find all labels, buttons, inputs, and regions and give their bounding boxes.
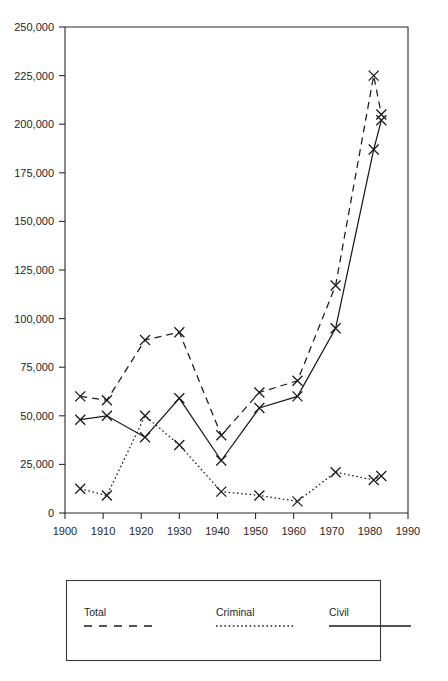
data-point-marker [102, 491, 112, 501]
legend-item-criminal: Criminal [216, 606, 294, 626]
x-axis-tick-label: 1970 [320, 525, 344, 537]
y-axis-tick-label: 200,000 [14, 118, 54, 130]
y-axis-tick-label: 150,000 [14, 215, 54, 227]
series-total [75, 71, 386, 441]
data-point-marker [331, 467, 341, 477]
data-point-marker [174, 440, 184, 450]
data-point-marker [174, 393, 184, 403]
legend-item-label: Total [84, 606, 106, 618]
data-point-marker [292, 376, 302, 386]
x-axis-tick-label: 1910 [91, 525, 115, 537]
x-axis-tick-label: 1960 [281, 525, 305, 537]
data-point-marker [254, 387, 264, 397]
data-point-marker [369, 71, 379, 81]
y-axis-tick-label: 0 [48, 507, 54, 519]
data-point-marker [376, 115, 386, 125]
line-chart-svg: 025,00050,00075,000100,000125,000150,000… [0, 0, 448, 560]
y-axis-tick-label: 225,000 [14, 70, 54, 82]
legend-border [67, 581, 381, 661]
data-point-marker [174, 327, 184, 337]
y-axis-tick-label: 250,000 [14, 21, 54, 33]
series-line [80, 76, 381, 436]
x-axis-tick-label: 1990 [396, 525, 420, 537]
y-axis-tick-label: 175,000 [14, 167, 54, 179]
data-point-marker [140, 432, 150, 442]
data-point-marker [140, 411, 150, 421]
data-point-marker [254, 403, 264, 413]
chart-figure: 025,00050,00075,000100,000125,000150,000… [0, 0, 448, 681]
legend-item-label: Criminal [216, 606, 255, 618]
legend-item-civil: Civil [329, 606, 411, 626]
legend-item-label: Civil [329, 606, 349, 618]
chart-legend: TotalCriminalCivil [0, 560, 448, 681]
y-axis-tick-label: 100,000 [14, 313, 54, 325]
data-point-marker [216, 430, 226, 440]
series-line [80, 120, 381, 460]
data-point-marker [140, 335, 150, 345]
x-axis-tick-label: 1930 [167, 525, 191, 537]
data-point-marker [75, 484, 85, 494]
data-point-marker [376, 109, 386, 119]
data-point-marker [331, 281, 341, 291]
x-axis-tick-label: 1950 [243, 525, 267, 537]
data-point-marker [292, 496, 302, 506]
legend-svg: TotalCriminalCivil [0, 560, 448, 681]
x-axis: 1900191019201930194019501960197019801990 [53, 513, 420, 537]
y-axis-tick-label: 75,000 [20, 361, 54, 373]
legend-item-total: Total [84, 606, 156, 626]
x-axis-tick-label: 1900 [53, 525, 77, 537]
data-point-marker [216, 456, 226, 466]
chart-plot-area: 025,00050,00075,000100,000125,000150,000… [0, 0, 448, 560]
x-axis-tick-label: 1980 [358, 525, 382, 537]
y-axis-tick-label: 125,000 [14, 264, 54, 276]
x-axis-tick-label: 1920 [129, 525, 153, 537]
x-axis-tick-label: 1940 [205, 525, 229, 537]
series-line [80, 416, 381, 502]
data-point-marker [331, 323, 341, 333]
data-point-marker [369, 144, 379, 154]
y-axis: 025,00050,00075,000100,000125,000150,000… [14, 21, 65, 519]
y-axis-tick-label: 25,000 [20, 458, 54, 470]
y-axis-tick-label: 50,000 [20, 410, 54, 422]
data-point-marker [102, 395, 112, 405]
data-point-marker [292, 391, 302, 401]
